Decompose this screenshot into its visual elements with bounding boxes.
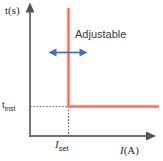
x-tick-label: Iset	[55, 139, 69, 153]
trip-curve-core	[69, 8, 160, 107]
trip-curve-figure: t(s) I(A) tinst Iset Adjustable	[0, 0, 163, 161]
x-axis-arrowhead	[146, 132, 156, 141]
adjustable-arrow-head-left	[49, 49, 57, 57]
x-tick-label-subscript: set	[59, 144, 69, 153]
x-axis-label-unit: (A)	[124, 144, 139, 156]
plot-canvas	[0, 0, 163, 161]
trip-curve-halo	[69, 8, 160, 107]
x-axis-label: I(A)	[120, 145, 139, 156]
y-tick-label-subscript: inst	[5, 105, 16, 112]
adjustable-annotation-label: Adjustable	[75, 29, 126, 40]
y-tick-label: tinst	[2, 100, 15, 113]
trip-curve	[69, 8, 160, 107]
y-axis-arrowhead	[26, 3, 35, 13]
y-axis-label: t(s)	[5, 5, 20, 16]
adjustable-arrow-head-right	[80, 49, 88, 57]
